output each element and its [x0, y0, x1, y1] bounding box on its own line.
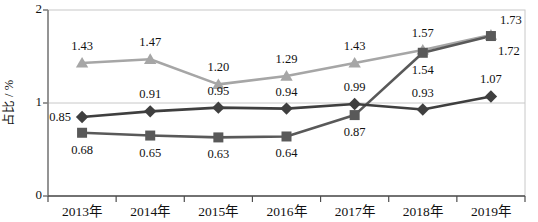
y-tick-label-1: 1	[36, 94, 43, 109]
data-label-light-gray-triangle-series-2013年: 1.43	[71, 39, 93, 53]
x-axis	[48, 196, 525, 202]
x-axis-label-2017年: 2017年	[335, 204, 375, 219]
data-label-dark-gray-square-series-2019年: 1.72	[498, 44, 520, 58]
line-chart: 2 1 0 占比 / % 2013年2014年2015年2016年2017年20…	[0, 0, 538, 222]
data-label-dark-diamond-series-2018年: 0.93	[412, 86, 434, 100]
data-label-light-gray-triangle-series-2019年: 1.73	[500, 13, 522, 27]
data-label-light-gray-triangle-series-2016年: 1.29	[276, 52, 298, 66]
marker-dark-gray-square-series-2018年	[418, 48, 428, 58]
marker-dark-gray-square-series-2015年	[213, 132, 223, 142]
data-label-dark-diamond-series-2013年: 0.85	[49, 110, 71, 124]
x-axis-label-2014年: 2014年	[130, 204, 170, 219]
marker-dark-gray-square-series-2016年	[282, 131, 292, 141]
y-axis-title: 占比 / %	[1, 80, 16, 126]
x-axis-category-labels: 2013年2014年2015年2016年2017年2018年2019年	[62, 204, 511, 219]
marker-dark-gray-square-series-2017年	[350, 110, 360, 120]
data-label-light-gray-triangle-series-2015年: 1.20	[207, 60, 229, 74]
data-label-dark-gray-square-series-2018年: 1.54	[412, 63, 435, 77]
data-label-dark-diamond-series-2015年: 0.95	[207, 84, 229, 98]
data-label-dark-diamond-series-2019年: 1.07	[480, 72, 502, 86]
data-label-dark-diamond-series-2016年: 0.94	[276, 85, 299, 99]
data-label-dark-gray-square-series-2017年: 0.87	[344, 125, 366, 139]
x-axis-label-2019年: 2019年	[471, 204, 511, 219]
data-label-dark-gray-square-series-2014年: 0.65	[139, 146, 161, 160]
marker-dark-gray-square-series-2019年	[486, 31, 496, 41]
x-axis-label-2013年: 2013年	[62, 204, 102, 219]
data-label-dark-gray-square-series-2013年: 0.68	[71, 143, 93, 157]
data-label-light-gray-triangle-series-2017年: 1.43	[344, 39, 366, 53]
chart-container: 2 1 0 占比 / % 2013年2014年2015年2016年2017年20…	[0, 0, 538, 222]
y-tick-label-2: 2	[36, 1, 43, 16]
x-axis-label-2018年: 2018年	[403, 204, 443, 219]
y-axis	[43, 10, 48, 196]
marker-dark-gray-square-series-2013年	[77, 128, 87, 138]
data-label-dark-diamond-series-2017年: 0.99	[344, 80, 366, 94]
y-tick-label-0: 0	[36, 187, 43, 202]
data-label-light-gray-triangle-series-2014年: 1.47	[139, 35, 161, 49]
data-label-light-gray-triangle-series-2018年: 1.57	[412, 26, 434, 40]
x-axis-label-2016年: 2016年	[267, 204, 307, 219]
data-label-dark-gray-square-series-2015年: 0.63	[207, 147, 229, 161]
marker-dark-gray-square-series-2014年	[145, 131, 155, 141]
data-label-dark-diamond-series-2014年: 0.91	[139, 87, 161, 101]
x-axis-label-2015年: 2015年	[198, 204, 238, 219]
data-label-dark-gray-square-series-2016年: 0.64	[276, 146, 299, 160]
